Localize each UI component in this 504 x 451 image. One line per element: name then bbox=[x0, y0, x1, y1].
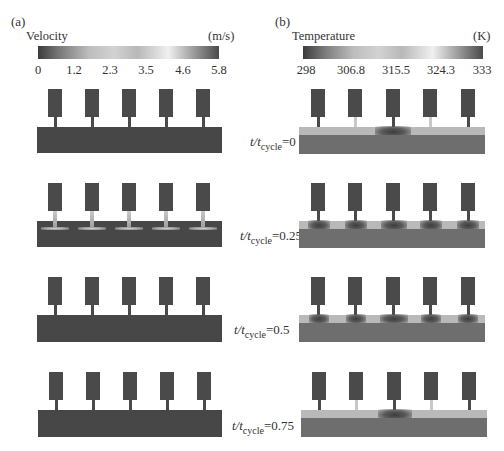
velocity-colorbar-unit: (m/s) bbox=[208, 29, 234, 44]
electrode bbox=[312, 372, 326, 400]
jet bbox=[90, 211, 94, 228]
nozzle bbox=[165, 117, 168, 127]
electrode bbox=[160, 372, 174, 400]
electrode bbox=[423, 183, 437, 211]
substrate bbox=[38, 410, 222, 437]
electrode bbox=[159, 183, 173, 211]
electrode bbox=[311, 89, 325, 117]
substrate bbox=[299, 323, 485, 342]
substrate bbox=[299, 229, 485, 248]
electrode bbox=[122, 277, 136, 305]
substrate bbox=[301, 418, 487, 437]
electrode bbox=[386, 277, 400, 305]
jet bbox=[127, 211, 131, 228]
electrode bbox=[423, 89, 437, 117]
nozzle bbox=[430, 400, 433, 410]
nozzle bbox=[318, 400, 321, 410]
nozzle bbox=[202, 117, 205, 127]
nozzle bbox=[129, 400, 132, 410]
nozzle bbox=[55, 400, 58, 410]
nozzle bbox=[165, 305, 168, 315]
nozzle bbox=[317, 117, 320, 127]
electrode bbox=[86, 372, 100, 400]
nozzle bbox=[429, 117, 432, 127]
electrode bbox=[123, 372, 137, 400]
substrate bbox=[299, 135, 485, 154]
velocity-tick: 3.5 bbox=[138, 63, 154, 78]
velocity-tick: 4.6 bbox=[175, 63, 191, 78]
electrode bbox=[424, 372, 438, 400]
temperature-colorbar-title: Temperature bbox=[292, 29, 355, 44]
jet bbox=[164, 211, 168, 228]
time-label-t05: t/tcycle=0.5 bbox=[234, 322, 290, 340]
electrode bbox=[196, 183, 210, 211]
electrode bbox=[159, 277, 173, 305]
nozzle bbox=[128, 305, 131, 315]
velocity-tick: 0 bbox=[35, 63, 41, 78]
nozzle bbox=[202, 305, 205, 315]
substrate bbox=[37, 315, 222, 342]
nozzle bbox=[468, 400, 471, 410]
nozzle bbox=[128, 117, 131, 127]
temperature-tick: 298 bbox=[297, 63, 316, 78]
nozzle bbox=[467, 117, 470, 127]
temperature-colorbar-unit: (K) bbox=[473, 29, 490, 44]
electrode bbox=[348, 89, 362, 117]
electrode bbox=[49, 372, 63, 400]
velocity-tick: 1.2 bbox=[66, 63, 82, 78]
nozzle bbox=[92, 400, 95, 410]
electrode bbox=[48, 277, 62, 305]
electrode bbox=[461, 183, 475, 211]
nozzle bbox=[354, 117, 357, 127]
electrode bbox=[348, 183, 362, 211]
panel-b-label: (b) bbox=[275, 14, 290, 30]
electrode bbox=[48, 89, 62, 117]
electrode bbox=[85, 89, 99, 117]
nozzle bbox=[54, 117, 57, 127]
electrode bbox=[85, 183, 99, 211]
time-label-t0: t/tcycle=0 bbox=[250, 134, 296, 152]
velocity-tick: 5.8 bbox=[211, 63, 227, 78]
wall-jet bbox=[152, 227, 180, 230]
nozzle bbox=[54, 305, 57, 315]
electrode bbox=[311, 277, 325, 305]
wall-jet bbox=[41, 227, 69, 230]
temperature-tick: 306.8 bbox=[337, 63, 365, 78]
nozzle bbox=[91, 117, 94, 127]
wall-jet bbox=[78, 227, 106, 230]
electrode bbox=[196, 89, 210, 117]
electrode bbox=[387, 372, 401, 400]
electrode bbox=[462, 372, 476, 400]
electrode bbox=[48, 183, 62, 211]
time-label-t075: t/tcycle=0.75 bbox=[232, 418, 294, 436]
electrode bbox=[196, 277, 210, 305]
temperature-tick: 333 bbox=[473, 63, 492, 78]
electrode bbox=[159, 89, 173, 117]
nozzle bbox=[166, 400, 169, 410]
nozzle bbox=[203, 400, 206, 410]
electrode bbox=[197, 372, 211, 400]
wall-jet bbox=[115, 227, 143, 230]
electrode bbox=[386, 183, 400, 211]
electrode bbox=[348, 277, 362, 305]
panel-a-label: (a) bbox=[11, 14, 25, 30]
velocity-colorbar-title: Velocity bbox=[26, 29, 68, 44]
electrode bbox=[461, 89, 475, 117]
electrode bbox=[423, 277, 437, 305]
wall-jet bbox=[189, 227, 217, 230]
nozzle bbox=[91, 305, 94, 315]
jet bbox=[201, 211, 205, 228]
electrode bbox=[311, 183, 325, 211]
nozzle bbox=[355, 400, 358, 410]
electrode bbox=[461, 277, 475, 305]
temperature-tick: 315.5 bbox=[382, 63, 410, 78]
electrode bbox=[349, 372, 363, 400]
time-label-t025: t/tcycle=0.25 bbox=[240, 228, 302, 246]
temperature-tick: 324.3 bbox=[427, 63, 455, 78]
electrode bbox=[85, 277, 99, 305]
substrate bbox=[37, 127, 222, 153]
electrode bbox=[122, 183, 136, 211]
temperature-colorbar bbox=[303, 46, 483, 59]
electrode bbox=[122, 89, 136, 117]
velocity-colorbar bbox=[38, 46, 219, 59]
